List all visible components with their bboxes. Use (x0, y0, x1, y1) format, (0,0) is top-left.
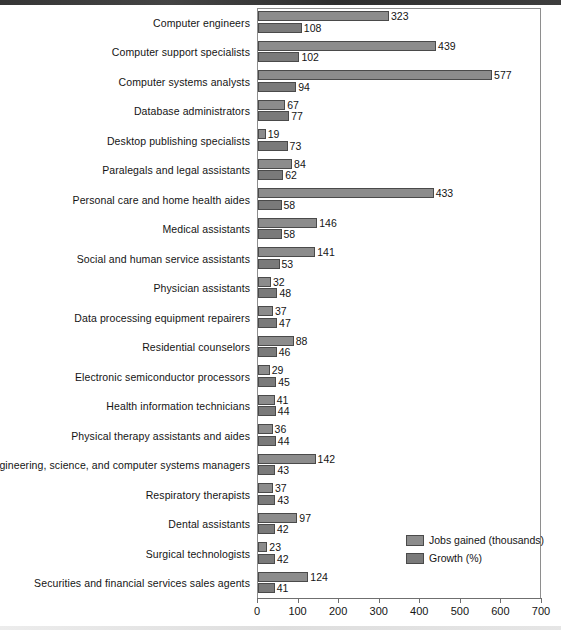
bar (258, 542, 267, 552)
bar-chart: Computer engineers323108Computer support… (0, 0, 561, 630)
category-label: Surgical technologists (146, 548, 250, 559)
bar (258, 583, 275, 593)
chart-row: Desktop publishing specialists1973 (0, 126, 561, 156)
bar (258, 129, 266, 139)
legend-item: Jobs gained (thousands) (406, 534, 536, 546)
tick-mark (257, 598, 258, 603)
bar-value-label: 142 (316, 453, 336, 464)
x-axis: 0100200300400500600700 (257, 598, 542, 628)
bar-value-label: 88 (294, 335, 308, 346)
bar-value-label: 41 (275, 583, 289, 594)
bar (258, 23, 302, 33)
bar-value-label: 29 (270, 365, 284, 376)
bar (258, 454, 316, 464)
bar (258, 336, 294, 346)
category-label: Physician assistants (153, 283, 250, 294)
tick-label: 0 (254, 605, 260, 617)
chart-row: Engineering, science, and computer syste… (0, 451, 561, 481)
bar (258, 513, 297, 523)
bar (258, 11, 389, 21)
chart-row: Electronic semiconductor processors2945 (0, 362, 561, 392)
tick-label: 200 (329, 605, 347, 617)
category-label: Medical assistants (162, 224, 250, 235)
bar (258, 406, 276, 416)
bar-value-label: 45 (276, 376, 290, 387)
chart-row: Health information technicians4144 (0, 392, 561, 422)
legend-label: Growth (%) (429, 552, 482, 564)
bar-value-label: 58 (282, 199, 296, 210)
category-label: Personal care and home health aides (73, 194, 250, 205)
bar (258, 465, 275, 475)
chart-row: Data processing equipment repairers3747 (0, 303, 561, 333)
category-label: Computer systems analysts (119, 76, 250, 87)
bar-value-label: 94 (296, 81, 310, 92)
bar-value-label: 42 (275, 524, 289, 535)
bar-value-label: 77 (289, 111, 303, 122)
tick-label: 700 (532, 605, 550, 617)
tick-label: 500 (451, 605, 469, 617)
category-label: Respiratory therapists (146, 489, 250, 500)
bar-value-label: 62 (283, 170, 297, 181)
bar (258, 347, 277, 357)
chart-row: Medical assistants14658 (0, 215, 561, 245)
bar (258, 247, 315, 257)
bar-value-label: 32 (271, 276, 285, 287)
tick-label: 600 (491, 605, 509, 617)
category-label: Database administrators (134, 106, 250, 117)
bar (258, 306, 273, 316)
bar (258, 277, 271, 287)
category-label: Social and human service assistants (77, 253, 250, 264)
tick-mark (338, 598, 339, 603)
bar (258, 159, 292, 169)
legend-item: Growth (%) (406, 552, 536, 564)
bar (258, 41, 436, 51)
bar-value-label: 97 (297, 512, 311, 523)
bar-value-label: 23 (267, 542, 281, 553)
chart-rows: Computer engineers323108Computer support… (0, 8, 561, 598)
category-label: Residential counselors (142, 342, 250, 353)
bar (258, 170, 283, 180)
bar (258, 259, 280, 269)
chart-row: Database administrators6777 (0, 97, 561, 127)
chart-row: Physician assistants3248 (0, 274, 561, 304)
bar (258, 318, 277, 328)
category-label: Computer engineers (153, 17, 250, 28)
chart-row: Residential counselors8846 (0, 333, 561, 363)
bar-value-label: 323 (389, 11, 409, 22)
category-label: Data processing equipment repairers (74, 312, 250, 323)
chart-row: Securities and financial services sales … (0, 569, 561, 599)
chart-row: Personal care and home health aides43358 (0, 185, 561, 215)
tick-label: 100 (288, 605, 306, 617)
bar-value-label: 19 (266, 129, 280, 140)
chart-row: Computer systems analysts57794 (0, 67, 561, 97)
legend-swatch-icon (406, 553, 424, 564)
bar-value-label: 577 (492, 70, 512, 81)
bar-value-label: 44 (276, 406, 290, 417)
bar (258, 572, 308, 582)
category-label: Computer support specialists (112, 47, 250, 58)
bar (258, 436, 276, 446)
bar-value-label: 47 (277, 317, 291, 328)
scan-artifact-top (0, 0, 561, 5)
chart-row: Respiratory therapists3743 (0, 480, 561, 510)
bar (258, 218, 317, 228)
category-label: Desktop publishing specialists (107, 135, 250, 146)
bar (258, 424, 273, 434)
chart-legend: Jobs gained (thousands)Growth (%) (406, 534, 536, 570)
bar-value-label: 67 (285, 99, 299, 110)
tick-mark (541, 598, 542, 603)
category-label: Paralegals and legal assistants (102, 165, 250, 176)
category-label: Securities and financial services sales … (34, 578, 250, 589)
bar (258, 377, 276, 387)
tick-mark (379, 598, 380, 603)
bar-value-label: 439 (436, 40, 456, 51)
bar (258, 288, 277, 298)
chart-row: Paralegals and legal assistants8462 (0, 156, 561, 186)
bar-value-label: 53 (280, 258, 294, 269)
bar (258, 111, 289, 121)
category-label: Electronic semiconductor processors (75, 371, 250, 382)
bar (258, 52, 299, 62)
bar-value-label: 41 (275, 394, 289, 405)
chart-row: Social and human service assistants14153 (0, 244, 561, 274)
chart-row: Physical therapy assistants and aides364… (0, 421, 561, 451)
